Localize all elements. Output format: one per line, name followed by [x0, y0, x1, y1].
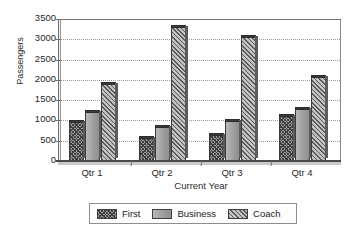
- bar-chart: Passengers 0500100015002000250030003500 …: [0, 0, 364, 243]
- bar-group: [201, 19, 271, 161]
- x-axis-tick-label: Qtr 4: [291, 167, 312, 178]
- bar-first-qtr-2: [139, 138, 154, 161]
- bar-first-qtr-3: [209, 135, 224, 161]
- bar-side-shadow: [255, 36, 258, 158]
- x-axis-title: Current Year: [61, 180, 341, 191]
- bar-group: [131, 19, 201, 161]
- bar-group: [61, 19, 131, 161]
- bars-layer: [61, 19, 341, 161]
- bar-top-edge: [295, 107, 310, 110]
- bar-top-edge: [155, 125, 170, 128]
- legend-label: Business: [177, 208, 216, 219]
- legend-item-first: First: [97, 208, 140, 219]
- x-axis-tick-label: Qtr 3: [221, 167, 242, 178]
- bar-coach-qtr-3: [241, 37, 256, 161]
- bar-coach-qtr-2: [171, 27, 186, 161]
- bar-side-shadow: [325, 76, 328, 158]
- bar-top-edge: [241, 35, 256, 38]
- bar-top-edge: [209, 133, 224, 136]
- legend-item-business: Business: [152, 208, 216, 219]
- bar-business-qtr-1: [85, 112, 100, 161]
- legend-swatch-first: [97, 209, 117, 219]
- bar-top-edge: [171, 25, 186, 28]
- bar-group: [271, 19, 341, 161]
- legend-swatch-coach: [228, 209, 248, 219]
- bar-side-shadow: [185, 26, 188, 158]
- bar-top-edge: [279, 114, 294, 117]
- legend-item-coach: Coach: [228, 208, 280, 219]
- y-axis-tick-label: 1000: [35, 115, 56, 125]
- bar-top-edge: [69, 120, 84, 123]
- y-axis-tick-labels: 0500100015002000250030003500: [22, 18, 56, 160]
- bar-top-edge: [85, 110, 100, 113]
- bar-coach-qtr-4: [311, 77, 326, 161]
- bar-side-shadow: [115, 83, 118, 158]
- y-axis-tick-label: 2000: [35, 74, 56, 84]
- y-axis-tick-label: 3000: [35, 34, 56, 44]
- y-axis-tick-label: 2500: [35, 54, 56, 64]
- bar-first-qtr-1: [69, 122, 84, 161]
- bar-first-qtr-4: [279, 116, 294, 161]
- y-axis-tick-label: 500: [40, 135, 56, 145]
- x-axis-tick-label: Qtr 1: [81, 167, 102, 178]
- legend-label: Coach: [253, 208, 280, 219]
- bar-business-qtr-2: [155, 127, 170, 161]
- legend-swatch-business: [152, 209, 172, 219]
- bar-coach-qtr-1: [101, 84, 116, 161]
- bar-top-edge: [311, 75, 326, 78]
- bar-business-qtr-3: [225, 121, 240, 161]
- chart-legend: FirstBusinessCoach: [89, 203, 297, 224]
- bar-business-qtr-4: [295, 109, 310, 161]
- bar-top-edge: [139, 136, 154, 139]
- y-axis-tick-label: 3500: [35, 13, 56, 23]
- y-axis-tick-label: 1500: [35, 94, 56, 104]
- legend-label: First: [122, 208, 140, 219]
- x-axis-tick-label: Qtr 2: [151, 167, 172, 178]
- bar-top-edge: [101, 82, 116, 85]
- bar-top-edge: [225, 119, 240, 122]
- x-axis-baseline: [56, 160, 341, 162]
